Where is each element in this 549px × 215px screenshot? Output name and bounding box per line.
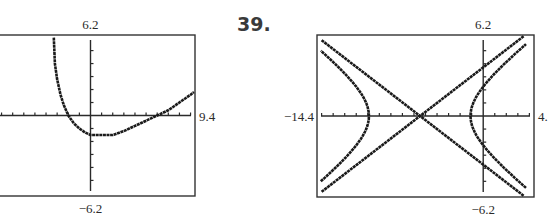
graph-right-ymin-label: −6.2 [471,202,495,215]
graph-right-xmin-label: −14.4 [284,109,315,124]
graph-right-xmax-label: 4. [538,109,548,124]
graph-right-asymptote-2 [322,36,524,192]
graph-right-asymptote-1 [322,40,524,196]
graph-left: 6.2 −6.2 9.4 [0,17,216,215]
graph-right: 6.2 −6.2 4. −14.4 [284,17,548,215]
figure-canvas: 39. 6.2 −6.2 9.4 6.2 −6.2 4. −14.4 [0,0,549,215]
graph-right-ymax-label: 6.2 [475,17,491,32]
graph-left-ymin-label: −6.2 [79,201,103,215]
graph-left-ymax-label: 6.2 [82,17,98,32]
graph-left-xmax-label: 9.4 [199,109,216,124]
graph-left-curve [54,38,194,135]
problem-number: 39. [237,13,271,35]
